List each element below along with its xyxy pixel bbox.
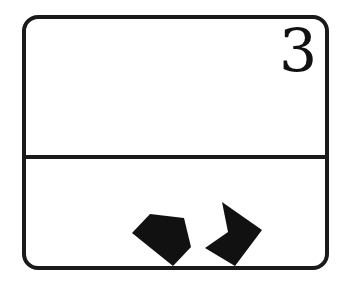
panel-divider — [26, 155, 325, 159]
game-card: 3 — [22, 15, 329, 270]
card-number: 3 — [273, 21, 323, 81]
